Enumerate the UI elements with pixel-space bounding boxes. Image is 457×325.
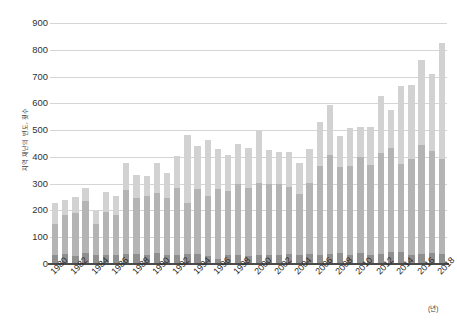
bar-segment-mid [367,165,373,255]
y-tick-label: 400 [20,152,48,161]
y-tick-label: 500 [20,125,48,134]
bar-segment-high [225,155,231,191]
bar-segment-high [439,43,445,159]
bar-segment-high [337,136,343,167]
bar-segment-mid [357,157,363,253]
bar-segment-high [367,127,373,165]
bar-segment-mid [174,188,180,255]
bar [144,176,150,264]
bar-segment-mid [327,155,333,254]
bar-segment-mid [113,215,119,255]
bar-segment-mid [398,164,404,252]
bar [123,163,129,264]
bar-segment-high [93,211,99,224]
bar-segment-high [296,163,302,194]
bar [225,155,231,264]
bar-segment-mid [286,187,292,254]
bar-segment-high [123,163,129,190]
bar [174,156,180,264]
bar-segment-high [266,150,272,184]
bar-segment-mid [337,167,343,253]
bar [235,144,241,264]
bar-segment-mid [418,145,424,255]
bar-segment-high [194,146,200,188]
plot-area [50,23,447,264]
bar-segment-high [174,156,180,187]
y-tick-label: 900 [20,18,48,27]
y-tick-label: 700 [20,72,48,81]
bar-segment-mid [347,166,353,254]
bar-segment-high [52,203,58,224]
bar-segment-mid [388,148,394,252]
bar-segment-high [306,149,312,183]
bar [194,146,200,264]
bar-series-group [50,23,447,264]
y-tick-label: 200 [20,205,48,214]
bar-segment-mid [317,166,323,254]
bar [317,122,323,264]
bar-segment-mid [194,189,200,255]
bar [82,188,88,264]
bar-segment-high [205,140,211,196]
bar [93,211,99,264]
bar-segment-mid [276,184,282,255]
bar [378,96,384,264]
bar [205,140,211,265]
bar-segment-high [215,149,221,189]
bar-segment-high [276,152,282,184]
y-tick-label: 0 [20,259,48,268]
bar-segment-mid [408,159,414,255]
bar-segment-high [245,148,251,187]
bar-segment-high [256,130,262,183]
bar-segment-high [113,196,119,215]
bar [337,136,343,264]
bar [398,86,404,264]
bar-segment-high [327,105,333,155]
bar [408,85,414,264]
bar-segment-mid [266,184,272,255]
bar-segment-mid [154,193,160,253]
bar-segment-mid [306,183,312,254]
bar [347,128,353,264]
bar [367,127,373,264]
bar [103,192,109,264]
bar [72,197,78,264]
y-tick-label: 100 [20,232,48,241]
bar-segment-mid [144,196,150,255]
bar-segment-mid [52,224,58,255]
bar-segment-high [286,152,292,187]
bar [154,163,160,264]
bar-segment-mid [62,215,68,254]
y-tick-label: 800 [20,45,48,54]
bar-segment-high [429,74,435,150]
bar-segment-mid [378,153,384,253]
bar-segment-mid [205,196,211,256]
bar-segment-mid [72,213,78,256]
bar [418,60,424,264]
bar-segment-mid [215,189,221,259]
x-axis-unit-label: (년) [428,303,438,313]
bar [62,200,68,264]
bar-chart: 지역 재난의 빈도, 횟수 01002003004005006007008009… [0,0,457,325]
bar-segment-mid [225,191,231,255]
bar-segment-high [144,176,150,196]
y-tick-label: 300 [20,179,48,188]
bar [357,127,363,264]
bar [164,173,170,264]
bar-segment-mid [256,183,262,255]
bar-segment-high [154,163,160,193]
bar-segment-mid [164,198,170,254]
bar-segment-high [82,188,88,201]
bar-segment-high [378,96,384,154]
bar-segment-high [347,128,353,167]
bar-segment-mid [93,224,99,255]
bar-segment-high [398,86,404,163]
bar [215,149,221,264]
bar-segment-high [408,85,414,159]
bar-segment-high [388,110,394,147]
bar-segment-mid [245,188,251,256]
bar-segment-high [62,200,68,215]
bar [388,110,394,264]
bar [306,149,312,264]
y-axis-tick-labels: 0100200300400500600700800900 [8,0,48,325]
